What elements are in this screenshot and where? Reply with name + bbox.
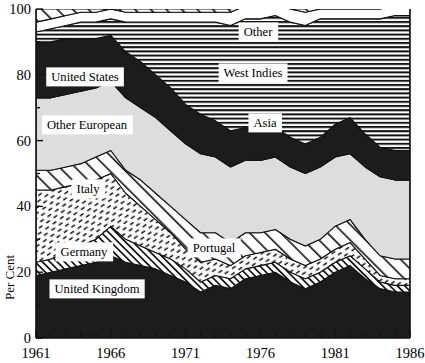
x-tick-label: 1961 — [22, 345, 51, 361]
y-tick-label: 100 — [9, 1, 31, 17]
series-label-germany: Germany — [56, 242, 114, 261]
y-tick-label: 80 — [17, 67, 32, 83]
x-tick-label: 1971 — [171, 345, 200, 361]
svg-text:Germany: Germany — [61, 245, 109, 259]
svg-text:Other: Other — [244, 25, 273, 39]
svg-text:United Kingdom: United Kingdom — [54, 282, 139, 296]
svg-text:Italy: Italy — [76, 182, 100, 196]
series-label-other: Other — [239, 22, 278, 41]
svg-text:West Indies: West Indies — [224, 66, 283, 80]
series-label-portugal: Portugal — [188, 238, 241, 257]
svg-text:United States: United States — [51, 70, 119, 84]
series-label-italy: Italy — [71, 179, 105, 198]
x-tick-label: 1986 — [396, 345, 425, 361]
svg-text:Asia: Asia — [253, 116, 276, 130]
chart-root: 020406080100196119661971197619811986 Per… — [0, 0, 425, 363]
svg-text:Portugal: Portugal — [193, 241, 236, 255]
x-tick-label: 1981 — [321, 345, 350, 361]
y-axis-title: Per Cent — [2, 254, 17, 300]
series-label-west-indies: West Indies — [219, 63, 288, 82]
series-label-united-kingdom: United Kingdom — [49, 279, 144, 298]
x-tick-label: 1966 — [96, 345, 125, 361]
y-tick-label: 60 — [17, 133, 32, 149]
svg-text:Other European: Other European — [47, 118, 128, 132]
x-tick-label: 1976 — [246, 345, 275, 361]
series-label-other-european: Other European — [42, 115, 133, 134]
y-tick-label: 20 — [17, 264, 32, 280]
y-tick-label: 40 — [17, 198, 32, 214]
series-label-asia: Asia — [248, 113, 281, 132]
series-label-united-states: United States — [46, 67, 124, 86]
y-tick-label: 0 — [24, 330, 31, 346]
stacked-area-chart: 020406080100196119661971197619811986 Per… — [0, 0, 425, 363]
